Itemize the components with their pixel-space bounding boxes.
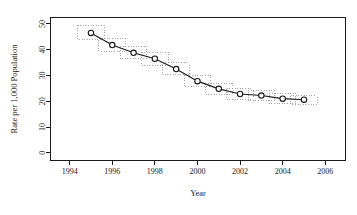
y-axis-tick-label: 30 [38, 71, 47, 79]
y-axis-tick-label: 40 [38, 46, 47, 54]
line-chart: 199419961998200020022004200601020304050Y… [0, 0, 357, 215]
x-axis-tick-label: 1994 [62, 167, 78, 176]
x-axis-tick-label: 1998 [147, 167, 163, 176]
y-axis-tick-label: 50 [38, 20, 47, 28]
data-point-marker [110, 42, 115, 47]
y-axis-tick-label: 0 [38, 151, 47, 155]
data-point-group [88, 30, 306, 102]
data-point-marker [195, 78, 200, 83]
plot-area-border [51, 18, 346, 161]
data-point-marker [280, 96, 285, 101]
data-point-marker [301, 97, 306, 102]
y-axis-title: Rate per 1,000 Population [9, 44, 19, 134]
confidence-band-group [78, 25, 318, 104]
data-point-marker [216, 86, 221, 91]
data-point-marker [259, 93, 264, 98]
x-axis-tick-label: 1996 [104, 167, 120, 176]
y-axis: 01020304050 [38, 20, 51, 155]
data-point-marker [173, 66, 178, 71]
y-axis-tick-label: 20 [38, 97, 47, 105]
data-point-marker [237, 91, 242, 96]
data-point-marker [88, 30, 93, 35]
data-series-line [91, 33, 304, 100]
x-axis-tick-label: 2006 [317, 167, 333, 176]
x-axis-title: Year [190, 188, 206, 198]
x-axis-tick-label: 2000 [189, 167, 205, 176]
chart-figure: 199419961998200020022004200601020304050Y… [0, 0, 357, 215]
data-point-marker [131, 50, 136, 55]
y-axis-tick-label: 10 [38, 123, 47, 131]
x-axis-tick-label: 2004 [275, 167, 291, 176]
x-axis-tick-label: 2002 [232, 167, 248, 176]
x-axis: 1994199619982000200220042006 [62, 161, 334, 177]
data-point-marker [152, 56, 157, 61]
